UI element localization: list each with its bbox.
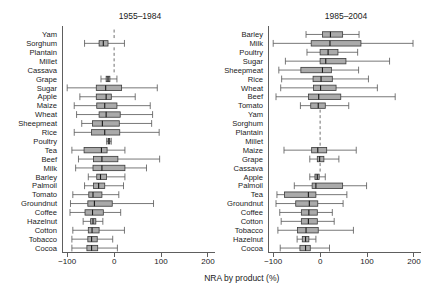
category-label: Beef bbox=[41, 155, 58, 164]
boxplot-item bbox=[276, 200, 343, 207]
boxplot-item bbox=[276, 93, 395, 100]
category-label: Plantain bbox=[30, 48, 57, 57]
x-tick-label: −100 bbox=[58, 257, 77, 266]
category-label: Rice bbox=[248, 75, 263, 84]
x-axis-title: NRA by product (%) bbox=[204, 273, 279, 283]
boxplot-item bbox=[77, 111, 153, 118]
category-label: Tobacco bbox=[29, 235, 57, 244]
category-label: Poultry bbox=[33, 137, 57, 146]
category-label: Coffee bbox=[241, 208, 263, 217]
boxplot-item bbox=[76, 165, 147, 172]
category-label: Maize bbox=[37, 101, 57, 110]
boxplot-item bbox=[72, 147, 125, 154]
category-label: Palmoil bbox=[32, 181, 57, 190]
category-label: Sheepmeat bbox=[224, 66, 264, 75]
category-label: Sugar bbox=[243, 57, 264, 66]
boxplot-item bbox=[85, 40, 125, 47]
category-label: Yam bbox=[248, 110, 263, 119]
category-label: Rice bbox=[42, 128, 57, 137]
category-label: Sugar bbox=[37, 84, 58, 93]
category-label: Hazelnut bbox=[233, 235, 264, 244]
nra-boxplot-svg: 1955–1984−1000100200YamSorghumPlantainMi… bbox=[0, 0, 438, 301]
category-label: Tea bbox=[251, 190, 264, 199]
category-label: Barley bbox=[35, 173, 57, 182]
boxplot-item bbox=[297, 236, 316, 243]
boxplot-item bbox=[107, 138, 112, 145]
boxplot-item bbox=[73, 191, 119, 198]
category-label: Tobacco bbox=[235, 226, 263, 235]
category-label: Sheepmeat bbox=[18, 119, 58, 128]
x-tick-label: 200 bbox=[407, 257, 421, 266]
category-label: Cassava bbox=[27, 66, 57, 75]
x-tick-label: 0 bbox=[318, 257, 323, 266]
boxplot-item bbox=[278, 227, 354, 234]
boxplot-figure: 1955–1984−1000100200YamSorghumPlantainMi… bbox=[0, 0, 438, 301]
category-label: Grape bbox=[242, 155, 263, 164]
boxplot-item bbox=[72, 245, 118, 252]
category-label: Plantain bbox=[236, 128, 263, 137]
boxplot-item bbox=[281, 84, 378, 91]
category-label: Groundnut bbox=[21, 199, 58, 208]
category-label: Maize bbox=[243, 146, 263, 155]
panel-axis-frame bbox=[63, 26, 216, 253]
panel-title: 1955–1984 bbox=[119, 11, 162, 21]
boxplot-item bbox=[74, 102, 150, 109]
category-label: Wheat bbox=[35, 110, 58, 119]
category-label: Cocoa bbox=[35, 244, 58, 253]
x-tick-label: 0 bbox=[112, 257, 117, 266]
category-label: Milk bbox=[250, 39, 264, 48]
x-tick-label: 100 bbox=[154, 257, 168, 266]
boxplot-item bbox=[279, 67, 359, 74]
panel-period-1: 1955–1984−1000100200YamSorghumPlantainMi… bbox=[18, 11, 215, 266]
category-label: Sorghum bbox=[232, 119, 263, 128]
boxplot-item bbox=[70, 209, 121, 216]
boxplot-item bbox=[284, 147, 356, 154]
x-tick-label: 100 bbox=[360, 257, 374, 266]
category-label: Apple bbox=[244, 173, 263, 182]
category-label: Apple bbox=[38, 92, 57, 101]
category-label: Cotton bbox=[35, 226, 57, 235]
category-label: Wheat bbox=[241, 84, 264, 93]
boxplot-item bbox=[300, 102, 348, 109]
boxplot-item bbox=[73, 227, 125, 234]
category-label: Cotton bbox=[241, 217, 263, 226]
boxplot-item bbox=[82, 120, 152, 127]
category-label: Millet bbox=[245, 137, 264, 146]
panel-title: 1985–2004 bbox=[325, 11, 368, 21]
boxplot-item bbox=[101, 76, 117, 83]
category-label: Yam bbox=[42, 30, 57, 39]
boxplot-item bbox=[67, 84, 157, 91]
boxplot-item bbox=[83, 218, 103, 225]
boxplot-item bbox=[72, 236, 113, 243]
boxplot-item bbox=[273, 40, 413, 47]
category-label: Cassava bbox=[233, 164, 263, 173]
boxplot-item bbox=[280, 209, 333, 216]
category-label: Tomato bbox=[32, 190, 57, 199]
boxplot-item bbox=[85, 182, 124, 189]
category-label: Tomato bbox=[238, 101, 263, 110]
category-label: Poultry bbox=[239, 48, 263, 57]
boxplot-item bbox=[310, 156, 339, 163]
boxplot-item bbox=[80, 93, 135, 100]
boxplot-item bbox=[282, 76, 369, 83]
category-label: Coffee bbox=[35, 208, 57, 217]
x-tick-label: 200 bbox=[201, 257, 215, 266]
category-label: Cocoa bbox=[241, 244, 264, 253]
boxplot-item bbox=[307, 49, 358, 56]
category-label: Groundnut bbox=[227, 199, 264, 208]
category-label: Hazelnut bbox=[27, 217, 58, 226]
category-label: Grape bbox=[36, 75, 57, 84]
boxplot-item bbox=[294, 182, 366, 189]
category-label: Millet bbox=[39, 57, 58, 66]
category-label: Palmoil bbox=[238, 181, 263, 190]
category-label: Sorghum bbox=[26, 39, 57, 48]
panel-period-2: 1985–2004−1000100200BarleyMilkPoultrySug… bbox=[224, 11, 421, 266]
boxplot-item bbox=[281, 218, 334, 225]
boxplot-item bbox=[88, 173, 125, 180]
category-label: Barley bbox=[241, 30, 263, 39]
boxplot-item bbox=[70, 200, 153, 207]
x-tick-label: −100 bbox=[264, 257, 283, 266]
category-label: Beef bbox=[247, 92, 264, 101]
category-label: Tea bbox=[45, 146, 58, 155]
boxplot-item bbox=[280, 245, 329, 252]
